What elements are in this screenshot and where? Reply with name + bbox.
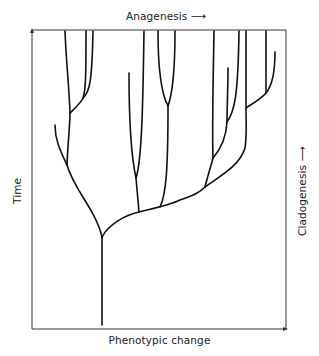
main-right-branch bbox=[102, 187, 205, 237]
mid-tip-144 bbox=[136, 31, 144, 178]
mid-short-tip-129 bbox=[129, 73, 136, 178]
right-tip-239 bbox=[227, 31, 239, 122]
left-sub-stem bbox=[70, 98, 83, 113]
mid-stem-1 bbox=[136, 178, 139, 212]
diagram-figure: Anagenesis ⟶ Phenotypic change Time Clad… bbox=[0, 0, 319, 356]
right-sub-stem-b bbox=[246, 93, 266, 108]
tree-branches bbox=[55, 31, 275, 325]
frame bbox=[32, 30, 286, 329]
left-short-tip bbox=[55, 125, 67, 165]
left-inner-stem bbox=[67, 113, 70, 165]
mid-tip-175 bbox=[168, 31, 175, 106]
left-clade-stem bbox=[67, 165, 102, 237]
tree-svg bbox=[0, 0, 319, 356]
left-tip-86 bbox=[83, 31, 86, 98]
mid-stem-2 bbox=[160, 106, 168, 207]
mid-tip-158 bbox=[158, 31, 168, 106]
right-stem-b bbox=[205, 108, 246, 187]
right-short-tip-275 bbox=[266, 52, 275, 93]
right-short-tip-228 bbox=[227, 68, 228, 122]
right-tip-214 bbox=[213, 31, 214, 158]
right-sub-stem-a bbox=[213, 122, 227, 158]
left-tip-65 bbox=[65, 31, 70, 113]
